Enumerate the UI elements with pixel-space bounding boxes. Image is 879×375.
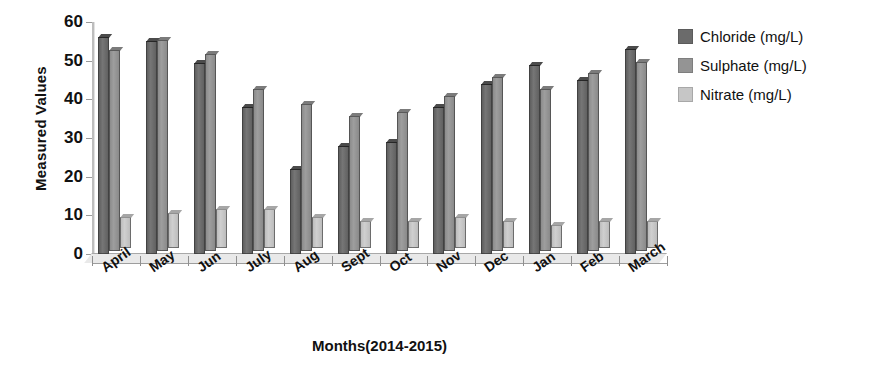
legend-label: Sulphate (mg/L) <box>700 57 807 74</box>
bar-group <box>571 22 619 254</box>
bar-may-chloride <box>146 41 157 254</box>
bar-july-nitrate <box>264 209 275 248</box>
bar-oct-nitrate <box>408 221 419 248</box>
legend-label: Nitrate (mg/L) <box>700 86 792 103</box>
y-tick-label: 30 <box>64 128 83 148</box>
bar-top-face <box>551 222 565 226</box>
bar-dec-chloride <box>481 84 492 254</box>
bar-aug-chloride <box>290 169 301 254</box>
x-axis-labels: AprilMayJunJulyAugSeptOctNovDecJanFebMar… <box>92 262 667 322</box>
bar-sept-chloride <box>338 146 349 254</box>
bar-group <box>92 22 140 254</box>
bar-jan-chloride <box>529 65 540 254</box>
bar-oct-chloride <box>386 142 397 254</box>
plot-area: 0102030405060 <box>92 22 667 254</box>
bar-top-face <box>109 47 123 51</box>
bar-top-face <box>253 86 267 90</box>
x-tick-mark <box>667 256 668 266</box>
bar-nov-sulphate <box>444 96 455 251</box>
bar-top-face <box>647 218 661 222</box>
bar-oct-sulphate <box>397 112 408 251</box>
bar-top-face <box>157 37 171 41</box>
legend-item: Chloride (mg/L) <box>678 22 807 51</box>
bar-july-sulphate <box>253 89 264 251</box>
bar-jan-sulphate <box>540 89 551 251</box>
bar-jun-sulphate <box>205 54 216 251</box>
bar-feb-chloride <box>577 80 588 254</box>
chart-legend: Chloride (mg/L)Sulphate (mg/L)Nitrate (m… <box>678 22 807 109</box>
bar-sept-sulphate <box>349 116 360 251</box>
bar-group <box>523 22 571 254</box>
bar-dec-sulphate <box>492 77 503 251</box>
y-tick-label: 50 <box>64 50 83 70</box>
bar-top-face <box>503 218 517 222</box>
bar-groups <box>92 22 667 254</box>
bar-top-face <box>301 101 315 105</box>
bar-july-chloride <box>242 107 253 254</box>
y-axis-title: Measured Values <box>32 29 49 229</box>
bar-top-face <box>168 210 182 214</box>
y-tick-label: 40 <box>64 89 83 109</box>
bar-group <box>284 22 332 254</box>
legend-swatch-icon <box>678 87 693 102</box>
bar-march-chloride <box>625 49 636 254</box>
bar-group <box>380 22 428 254</box>
bar-dec-nitrate <box>503 221 514 248</box>
bar-top-face <box>349 113 363 117</box>
bar-top-face <box>444 93 458 97</box>
bar-jun-chloride <box>194 63 205 254</box>
legend-label: Chloride (mg/L) <box>700 28 803 45</box>
legend-swatch-icon <box>678 58 693 73</box>
bar-group <box>188 22 236 254</box>
bar-group <box>140 22 188 254</box>
bar-april-sulphate <box>109 50 120 251</box>
bar-top-face <box>540 86 554 90</box>
bar-top-face <box>205 51 219 55</box>
y-tick-label: 10 <box>64 205 83 225</box>
legend-item: Sulphate (mg/L) <box>678 51 807 80</box>
bar-march-sulphate <box>636 62 647 251</box>
bar-top-face <box>360 218 374 222</box>
bar-group <box>619 22 667 254</box>
bar-top-face <box>312 214 326 218</box>
bar-aug-sulphate <box>301 104 312 251</box>
bar-top-face <box>599 218 613 222</box>
bar-group <box>427 22 475 254</box>
bar-jun-nitrate <box>216 209 227 248</box>
bar-top-face <box>98 34 112 38</box>
chart-figure: Measured Values 0102030405060 AprilMayJu… <box>0 0 879 375</box>
x-axis-title: Months(2014-2015) <box>92 337 667 354</box>
bar-group <box>236 22 284 254</box>
bar-top-face <box>120 214 134 218</box>
y-tick-label: 20 <box>64 166 83 186</box>
bar-top-face <box>455 214 469 218</box>
legend-item: Nitrate (mg/L) <box>678 80 807 109</box>
bar-nov-nitrate <box>455 217 466 248</box>
bar-feb-sulphate <box>588 73 599 251</box>
bar-top-face <box>264 206 278 210</box>
bar-jan-nitrate <box>551 225 562 248</box>
legend-swatch-icon <box>678 29 693 44</box>
bar-top-face <box>492 74 506 78</box>
y-tick-label: 60 <box>64 12 83 32</box>
bar-top-face <box>408 218 422 222</box>
bar-group <box>332 22 380 254</box>
y-tick-label: 0 <box>74 244 83 264</box>
bar-top-face <box>216 206 230 210</box>
bar-april-chloride <box>98 37 109 254</box>
bar-sept-nitrate <box>360 221 371 248</box>
bar-top-face <box>397 109 411 113</box>
bar-top-face <box>636 59 650 63</box>
bar-feb-nitrate <box>599 221 610 248</box>
bar-top-face <box>529 62 543 66</box>
bar-group <box>475 22 523 254</box>
bar-april-nitrate <box>120 217 131 248</box>
bar-nov-chloride <box>433 107 444 254</box>
bar-aug-nitrate <box>312 217 323 248</box>
bar-top-face <box>625 46 639 50</box>
bar-may-nitrate <box>168 213 179 248</box>
bar-top-face <box>588 70 602 74</box>
bar-may-sulphate <box>157 40 168 251</box>
